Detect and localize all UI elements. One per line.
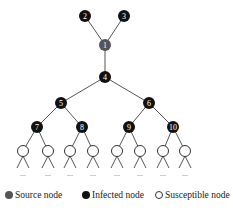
edge	[70, 156, 76, 168]
susceptible-node	[180, 146, 191, 157]
edge	[117, 156, 123, 168]
node-label: 6	[147, 99, 151, 108]
susceptible-node	[158, 146, 169, 157]
susceptible-node	[88, 146, 99, 157]
edge	[64, 156, 70, 168]
susceptible-leaves	[18, 146, 191, 157]
tree-nodes: 12345678910	[31, 10, 179, 133]
continuation-dots: ...	[160, 170, 166, 177]
susceptible-node-icon	[155, 191, 163, 199]
edge	[105, 77, 149, 103]
edge	[23, 156, 29, 168]
node-label: 2	[83, 12, 87, 21]
legend-label-source: Source node	[15, 190, 62, 200]
legend-label-infected: Infected node	[92, 190, 144, 200]
edge	[185, 156, 191, 168]
node-label: 7	[35, 123, 39, 132]
legend-item-susceptible: Susceptible node	[155, 190, 230, 200]
continuation-dots: ...	[20, 170, 26, 177]
edge	[157, 156, 163, 168]
node-label: 3	[122, 12, 126, 21]
susceptible-node	[18, 146, 29, 157]
source-node-icon	[5, 191, 13, 199]
susceptible-node	[112, 146, 123, 157]
susceptible-node	[43, 146, 54, 157]
edge	[163, 156, 169, 168]
edge	[111, 156, 117, 168]
infected-node-icon	[82, 191, 90, 199]
node-label: 4	[103, 73, 107, 82]
continuation-dots: ...	[137, 170, 143, 177]
continuation-dots: ...	[67, 170, 73, 177]
node-label: 1	[103, 41, 107, 50]
edge	[87, 156, 93, 168]
continuation-dots: ...	[182, 170, 188, 177]
continuation-dots: ........................	[20, 170, 188, 177]
susceptible-node	[65, 146, 76, 157]
continuation-dots: ...	[114, 170, 120, 177]
node-label: 9	[127, 123, 131, 132]
edge	[48, 156, 54, 168]
edge	[42, 156, 48, 168]
legend: Source node Infected node Susceptible no…	[0, 190, 233, 204]
node-label: 5	[59, 99, 63, 108]
edge	[134, 156, 140, 168]
edge	[61, 77, 105, 103]
continuation-dots: ...	[45, 170, 51, 177]
node-label: 10	[169, 123, 177, 132]
legend-item-source: Source node	[5, 190, 62, 200]
legend-label-susceptible: Susceptible node	[165, 190, 230, 200]
edge	[93, 156, 99, 168]
legend-item-infected: Infected node	[82, 190, 144, 200]
edge	[140, 156, 146, 168]
susceptible-node	[135, 146, 146, 157]
edge	[179, 156, 185, 168]
continuation-dots: ...	[90, 170, 96, 177]
node-label: 8	[80, 123, 84, 132]
propagation-tree-diagram: 12345678910 ........................	[0, 0, 233, 190]
edge	[17, 156, 23, 168]
